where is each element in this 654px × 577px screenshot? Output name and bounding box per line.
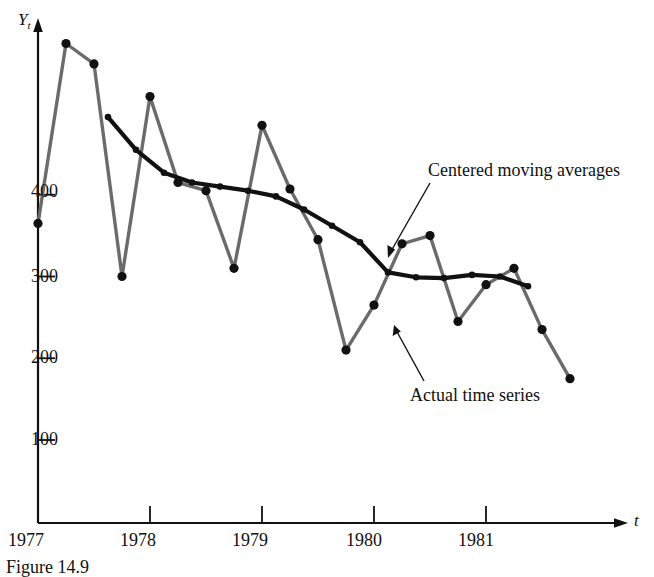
x-tick-label-1977: 1977 [8,531,44,549]
figure-caption: Figure 14.9 [6,558,89,576]
data-point-marker [453,317,462,326]
x-tick-label-1981: 1981 [458,531,494,549]
data-point-marker [61,39,70,48]
data-point-marker [425,231,434,240]
data-point-marker [509,264,518,273]
actual-series-leader-arrowhead [393,325,401,336]
data-point-marker [145,92,154,101]
y-tick-label-400: 400 [2,182,58,200]
y-tick-label-300: 300 [2,267,58,285]
y-axis-title: Yt [18,10,31,31]
x-axis-arrowhead [614,518,628,528]
data-point-marker [105,114,112,121]
data-point-marker [369,301,378,310]
x-tick-label-1978: 1978 [120,531,156,549]
y-axis-title-subscript: t [27,19,30,31]
annotation-centered-moving-averages: Centered moving averages [428,161,620,179]
data-point-marker [441,275,448,282]
data-point-marker [329,223,336,230]
y-axis-arrowhead [33,18,43,32]
data-point-marker [397,239,406,248]
data-point-marker [229,264,238,273]
data-point-marker [525,283,532,290]
annotation-actual-time-series: Actual time series [410,386,540,404]
x-tick-label-1979: 1979 [232,531,268,549]
y-tick-label-200: 200 [2,348,58,366]
actual-series-leader-line [396,330,424,381]
data-point-marker [33,219,42,228]
data-point-marker [217,183,224,190]
x-axis-ticks [150,506,486,523]
data-point-marker [161,169,168,176]
data-point-marker [257,121,266,130]
data-point-marker [537,325,546,334]
data-point-marker [117,272,126,281]
data-point-marker [313,235,322,244]
data-point-marker [469,272,476,279]
data-point-marker [565,374,574,383]
data-point-marker [413,274,420,281]
data-point-marker [301,206,308,213]
data-point-marker [189,179,196,186]
y-axis-ticks [37,195,55,440]
data-point-marker [285,184,294,193]
data-point-marker [341,346,350,355]
series-centered-moving-averages [105,114,532,290]
data-point-marker [89,59,98,68]
data-point-marker [133,147,140,154]
series-line [108,117,528,286]
data-point-marker [385,269,392,276]
data-point-marker [201,186,210,195]
data-point-marker [245,187,252,194]
data-point-marker [273,193,280,200]
x-tick-label-1980: 1980 [346,531,382,549]
data-point-marker [357,239,364,246]
x-axis-title: t [634,511,639,531]
data-point-marker [497,273,504,280]
data-point-marker [481,280,490,289]
annotation-leader-lines [387,183,430,381]
y-tick-label-100: 100 [2,430,58,448]
